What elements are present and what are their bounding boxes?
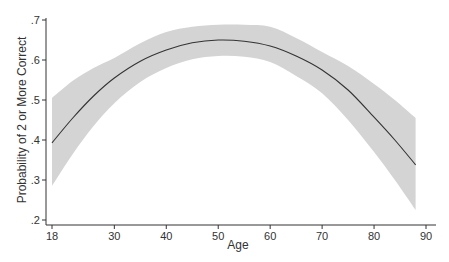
x-tick-label: 80 <box>368 230 380 242</box>
y-tick-label: .6 <box>31 54 40 66</box>
x-tick-label: 30 <box>108 230 120 242</box>
y-axis-ticks: .2.3.4.5.6.7 <box>31 14 46 226</box>
x-tick-label: 18 <box>46 230 58 242</box>
y-tick-label: .5 <box>31 94 40 106</box>
x-tick-label: 90 <box>420 230 432 242</box>
confidence-band <box>52 25 416 210</box>
x-tick-label: 60 <box>264 230 276 242</box>
y-tick-label: .3 <box>31 174 40 186</box>
y-tick-label: .7 <box>31 14 40 26</box>
y-tick-label: .2 <box>31 214 40 226</box>
x-tick-label: 50 <box>212 230 224 242</box>
x-tick-label: 70 <box>316 230 328 242</box>
chart: .2.3.4.5.6.7 1830405060708090 Age Probab… <box>0 0 449 262</box>
x-axis-title: Age <box>227 238 249 252</box>
y-tick-label: .4 <box>31 134 40 146</box>
y-axis-title: Probability of 2 or More Correct <box>15 36 29 203</box>
plot-area <box>52 25 416 210</box>
x-tick-label: 40 <box>160 230 172 242</box>
